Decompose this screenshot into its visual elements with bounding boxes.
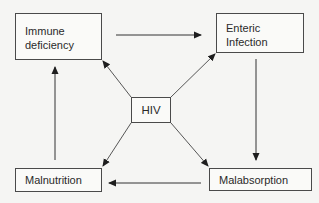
node-immune-deficiency: Immune deficiency	[15, 13, 102, 60]
node-hiv: HIV	[131, 97, 171, 123]
node-label: Malabsorption	[219, 173, 311, 187]
node-label: Malnutrition	[25, 173, 101, 187]
edge-hiv-to-malabsorption	[171, 123, 208, 166]
node-enteric-infection: Enteric Infection	[216, 13, 304, 53]
node-label: HIV	[132, 103, 170, 117]
edge-hiv-to-immune	[103, 61, 131, 97]
node-malabsorption: Malabsorption	[209, 168, 312, 191]
node-malnutrition: Malnutrition	[15, 168, 102, 192]
edge-hiv-to-enteric	[171, 54, 215, 97]
edge-hiv-to-malnutrition	[103, 123, 131, 166]
node-label: Immune deficiency	[25, 24, 101, 52]
node-label: Enteric Infection	[226, 21, 303, 49]
diagram-canvas: Immune deficiency Enteric Infection HIV …	[0, 0, 319, 203]
